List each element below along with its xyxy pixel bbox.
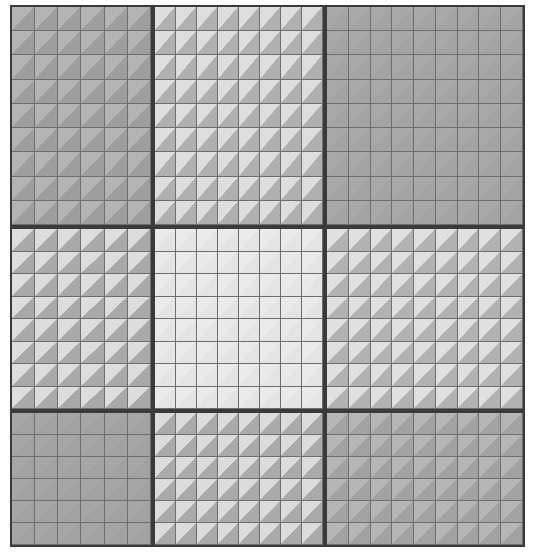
cell-diagonal-fill (197, 201, 217, 224)
matrix-cell (12, 479, 35, 501)
cell-diagonal-fill (327, 31, 348, 54)
cell-diagonal-fill (58, 274, 80, 296)
cell-diagonal-fill (260, 274, 280, 296)
cell-diagonal-fill (414, 523, 435, 544)
matrix-cell (436, 31, 458, 55)
cell-diagonal-fill (349, 319, 370, 341)
matrix-cell (218, 229, 239, 252)
cell-diagonal-fill (281, 319, 301, 341)
matrix-cell (458, 319, 480, 342)
matrix-cell (176, 31, 197, 55)
matrix-cell (392, 435, 414, 457)
matrix-cell (281, 31, 302, 55)
matrix-cell (392, 413, 414, 435)
matrix-cell (501, 387, 523, 410)
cell-diagonal-fill (436, 229, 457, 251)
matrix-cell (239, 128, 260, 152)
cell-diagonal-fill (218, 201, 238, 224)
matrix-cell (218, 201, 239, 225)
matrix-cell (371, 479, 393, 501)
matrix-cell (260, 523, 281, 545)
matrix-cell (197, 435, 218, 457)
cell-diagonal-fill (105, 435, 127, 456)
matrix-cell (260, 435, 281, 457)
matrix-cell (81, 177, 104, 201)
cell-diagonal-fill (176, 104, 196, 127)
matrix-cell (58, 342, 81, 365)
cell-diagonal-fill (218, 252, 238, 274)
cell-diagonal-fill (414, 177, 435, 200)
matrix-cell (12, 274, 35, 297)
matrix-cell (281, 104, 302, 128)
cell-diagonal-fill (197, 229, 217, 251)
matrix-cell (58, 297, 81, 320)
cell-diagonal-fill (458, 364, 479, 386)
matrix-cell (392, 201, 414, 225)
cell-diagonal-fill (458, 523, 479, 544)
matrix-cell (128, 342, 151, 365)
cell-diagonal-fill (371, 104, 392, 127)
cell-diagonal-fill (281, 128, 301, 151)
cell-diagonal-fill (479, 387, 500, 409)
matrix-cell (239, 342, 260, 365)
cell-diagonal-fill (81, 342, 103, 364)
matrix-cell (414, 229, 436, 252)
cell-diagonal-fill (81, 55, 103, 78)
matrix-cell (128, 177, 151, 201)
cell-diagonal-fill (155, 274, 175, 296)
cell-diagonal-fill (327, 523, 348, 544)
matrix-cell (58, 229, 81, 252)
cell-diagonal-fill (281, 523, 301, 544)
matrix-cell (81, 128, 104, 152)
matrix-cell (197, 297, 218, 320)
matrix-cell (218, 31, 239, 55)
matrix-cell (128, 364, 151, 387)
matrix-cell (35, 364, 58, 387)
matrix-cell (327, 229, 349, 252)
matrix-cell (260, 274, 281, 297)
cell-diagonal-fill (281, 342, 301, 364)
matrix-cell (155, 201, 176, 225)
cell-diagonal-fill (436, 364, 457, 386)
cell-diagonal-fill (436, 31, 457, 54)
matrix-cell (458, 435, 480, 457)
cell-diagonal-fill (155, 297, 175, 319)
matrix-cell (35, 252, 58, 275)
cell-diagonal-fill (260, 229, 280, 251)
cell-diagonal-fill (155, 342, 175, 364)
cell-diagonal-fill (12, 128, 34, 151)
cell-diagonal-fill (239, 342, 259, 364)
matrix-cell (414, 152, 436, 176)
cell-diagonal-fill (392, 128, 413, 151)
cell-diagonal-fill (392, 479, 413, 500)
matrix-cell (197, 342, 218, 365)
matrix-cell (479, 104, 501, 128)
matrix-cell (128, 229, 151, 252)
cell-diagonal-fill (81, 229, 103, 251)
cell-diagonal-fill (239, 364, 259, 386)
cell-diagonal-fill (12, 7, 34, 30)
matrix-cell (501, 201, 523, 225)
matrix-cell (501, 55, 523, 79)
cell-diagonal-fill (105, 364, 127, 386)
matrix-cell (12, 229, 35, 252)
cell-diagonal-fill (501, 80, 522, 103)
matrix-cell (371, 523, 393, 545)
cell-diagonal-fill (414, 364, 435, 386)
matrix-cell (155, 413, 176, 435)
matrix-cell (197, 413, 218, 435)
matrix-cell (371, 7, 393, 31)
cell-diagonal-fill (128, 274, 150, 296)
cell-diagonal-fill (197, 297, 217, 319)
matrix-cell (197, 31, 218, 55)
matrix-cell (81, 201, 104, 225)
cell-diagonal-fill (371, 274, 392, 296)
matrix-cell (35, 80, 58, 104)
matrix-cell (392, 387, 414, 410)
cell-diagonal-fill (458, 80, 479, 103)
matrix-cell (105, 80, 128, 104)
matrix-cell (35, 152, 58, 176)
cell-diagonal-fill (239, 319, 259, 341)
matrix-cell (155, 479, 176, 501)
matrix-cell (392, 319, 414, 342)
